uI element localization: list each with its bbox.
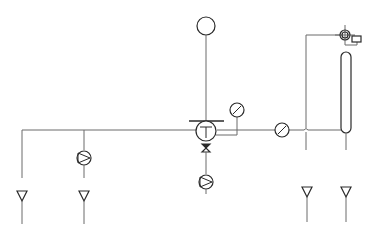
outlet-4-triangle-icon [341,187,351,197]
top-instrument-icon [197,17,215,35]
line-crossover [304,129,308,131]
gauge-1-icon [230,103,244,117]
gauge-1-line [216,117,237,135]
process-diagram [0,0,373,234]
column-bypass-line [306,35,340,128]
gauge-2-icon [275,123,289,137]
column-box-icon [352,36,361,42]
pump-center-icon [199,175,213,189]
outlet-3-triangle-icon [302,187,312,197]
valve-icon [202,144,210,152]
pump-left-icon [77,151,91,165]
outlet-2-triangle-icon [79,191,89,201]
outlet-1-triangle-icon [17,191,27,201]
column-vessel-icon [341,52,351,133]
main-vessel-icon [196,121,216,141]
